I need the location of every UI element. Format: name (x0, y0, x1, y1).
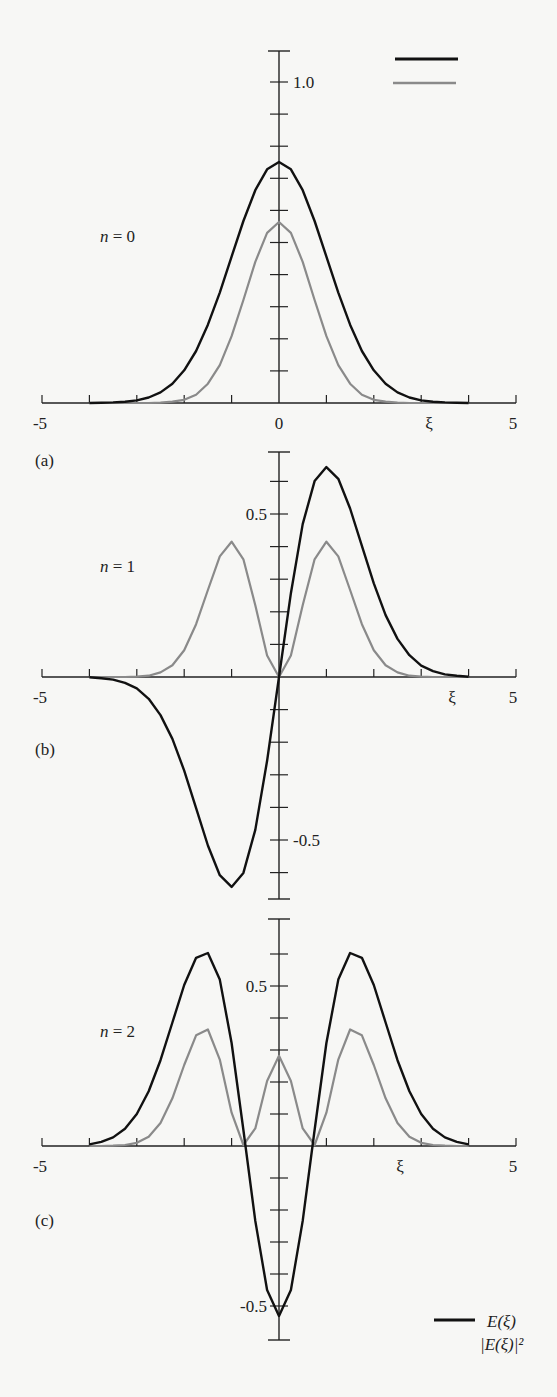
legend-label-prob: |E(ξ)|² (480, 1335, 524, 1354)
panel-label: (a) (35, 451, 54, 470)
y-tick-label: 0.5 (246, 505, 267, 524)
legend-label-psi: E(ξ) (486, 1312, 516, 1331)
x-tick-label-max: 5 (509, 414, 518, 433)
panel-label: (c) (35, 1211, 54, 1230)
y-tick-label: -0.5 (240, 1297, 267, 1316)
quantum-number-label: n = 1 (100, 557, 135, 576)
panel-label: (b) (35, 740, 55, 759)
x-tick-label-min: -5 (33, 414, 47, 433)
wavefunction-figure: -550ξ1.0n = 0(a)-55ξ0.5-0.5n = 1(b)-55ξ0… (0, 0, 557, 1397)
y-tick-label: -0.5 (293, 831, 320, 850)
panel-a: -550ξ1.0n = 0(a) (33, 51, 517, 470)
panel-b: -55ξ0.5-0.5n = 1(b) (33, 452, 517, 899)
x-tick-label-max: 5 (509, 688, 518, 707)
y-tick-label: 1.0 (293, 73, 314, 92)
x-tick-label-min: -5 (33, 688, 47, 707)
x-tick-label-zero: 0 (275, 414, 284, 433)
quantum-number-label: n = 0 (100, 227, 135, 246)
quantum-number-label: n = 2 (100, 1022, 135, 1041)
x-axis-label: ξ (396, 1157, 404, 1176)
x-tick-label-max: 5 (509, 1157, 518, 1176)
x-tick-label-min: -5 (33, 1157, 47, 1176)
x-axis-label: ξ (448, 688, 456, 707)
x-axis-label: ξ (425, 414, 433, 433)
panel-c: -55ξ0.5-0.5n = 2(c) (33, 919, 517, 1340)
y-tick-label: 0.5 (246, 977, 267, 996)
